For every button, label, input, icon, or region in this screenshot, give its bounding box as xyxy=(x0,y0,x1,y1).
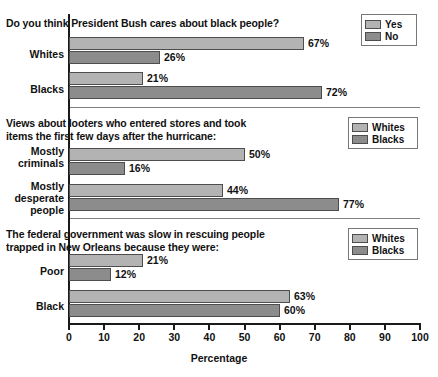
x-tick-mark-100 xyxy=(419,325,421,330)
category-label-blacks: Blacks xyxy=(0,83,64,95)
bar-value-mostly-desperate-blacks: 77% xyxy=(343,198,364,211)
x-tick-mark-80 xyxy=(349,325,351,330)
x-axis-title: Percentage xyxy=(0,352,438,364)
legend-row-whites-3: Whites xyxy=(352,232,413,244)
x-tick-label-90: 90 xyxy=(379,331,391,343)
category-label-poor: Poor xyxy=(0,265,64,277)
bar-whites-no xyxy=(69,51,160,64)
bar-black-blacks xyxy=(69,304,280,317)
legend-swatch-whites-3 xyxy=(352,234,368,243)
legend-row-blacks-3: Blacks xyxy=(352,244,413,256)
panel-separator-2 xyxy=(70,218,420,219)
bar-whites-yes xyxy=(69,37,304,50)
x-tick-mark-20 xyxy=(138,325,140,330)
x-tick-mark-70 xyxy=(314,325,316,330)
bar-value-mostly-desperate-whites: 44% xyxy=(227,184,248,197)
panel-title-looters: Views about looters who entered stores a… xyxy=(6,117,246,142)
x-tick-label-50: 50 xyxy=(239,331,251,343)
legend-label-whites-3: Whites xyxy=(372,233,405,244)
x-tick-label-80: 80 xyxy=(344,331,356,343)
bar-mostly-criminals-whites xyxy=(69,148,245,161)
bar-poor-blacks xyxy=(69,268,111,281)
bar-mostly-desperate-whites xyxy=(69,184,223,197)
x-tick-label-0: 0 xyxy=(66,331,72,343)
x-tick-label-20: 20 xyxy=(133,331,145,343)
x-tick-mark-30 xyxy=(173,325,175,330)
panel-separator-1 xyxy=(70,107,420,108)
x-tick-mark-40 xyxy=(208,325,210,330)
legend-swatch-blacks-3 xyxy=(352,246,368,255)
x-tick-label-10: 10 xyxy=(98,331,110,343)
bar-value-poor-whites: 21% xyxy=(147,254,168,267)
x-tick-mark-90 xyxy=(384,325,386,330)
legend-label-blacks: Blacks xyxy=(372,134,404,145)
legend-label-yes: Yes xyxy=(385,19,402,30)
x-tick-label-70: 70 xyxy=(309,331,321,343)
bar-value-black-blacks: 60% xyxy=(284,304,305,317)
panel-title-federal-slow: The federal government was slow in rescu… xyxy=(6,228,265,253)
bar-blacks-no xyxy=(69,86,322,99)
x-tick-label-100: 100 xyxy=(411,331,429,343)
category-label-mostly-desperate-people: Mostly desperate people xyxy=(0,180,64,216)
legend-swatch-yes xyxy=(365,20,381,29)
bar-value-poor-blacks: 12% xyxy=(115,268,136,281)
x-tick-label-60: 60 xyxy=(274,331,286,343)
panel-title-bush-cares: Do you think President Bush cares about … xyxy=(6,17,279,30)
legend-swatch-blacks xyxy=(352,135,368,144)
legend-panel-looters: Whites Blacks xyxy=(348,117,418,149)
x-tick-mark-60 xyxy=(279,325,281,330)
category-label-whites: Whites xyxy=(0,48,64,60)
legend-swatch-no xyxy=(365,32,381,41)
legend-panel-bush-cares: Yes No xyxy=(361,14,417,46)
bar-value-black-whites: 63% xyxy=(294,290,315,303)
bar-value-blacks-yes: 21% xyxy=(147,72,168,85)
bar-value-mostly-criminals-whites: 50% xyxy=(249,148,270,161)
bar-blacks-yes xyxy=(69,72,143,85)
x-tick-mark-0 xyxy=(68,325,70,330)
legend-row-whites: Whites xyxy=(352,121,413,133)
x-tick-mark-10 xyxy=(103,325,105,330)
legend-row-yes: Yes xyxy=(365,18,412,30)
legend-row-blacks: Blacks xyxy=(352,133,413,145)
bar-value-mostly-criminals-blacks: 16% xyxy=(129,162,150,175)
legend-row-no: No xyxy=(365,30,412,42)
legend-label-whites: Whites xyxy=(372,122,405,133)
category-label-mostly-criminals: Mostly criminals xyxy=(0,145,64,169)
legend-label-no: No xyxy=(385,31,398,42)
x-tick-label-30: 30 xyxy=(168,331,180,343)
bar-value-whites-yes: 67% xyxy=(308,37,329,50)
bar-value-blacks-no: 72% xyxy=(326,86,347,99)
legend-swatch-whites xyxy=(352,123,368,132)
bar-mostly-criminals-blacks xyxy=(69,162,125,175)
legend-panel-federal-slow: Whites Blacks xyxy=(348,228,418,260)
x-tick-mark-50 xyxy=(244,325,246,330)
bar-value-whites-no: 26% xyxy=(164,51,185,64)
category-label-black: Black xyxy=(0,300,64,312)
legend-label-blacks-3: Blacks xyxy=(372,245,404,256)
bar-black-whites xyxy=(69,290,290,303)
grouped-bar-chart: Do you think President Bush cares about … xyxy=(0,0,438,377)
bar-mostly-desperate-blacks xyxy=(69,198,339,211)
x-tick-label-40: 40 xyxy=(204,331,216,343)
bar-poor-whites xyxy=(69,254,143,267)
